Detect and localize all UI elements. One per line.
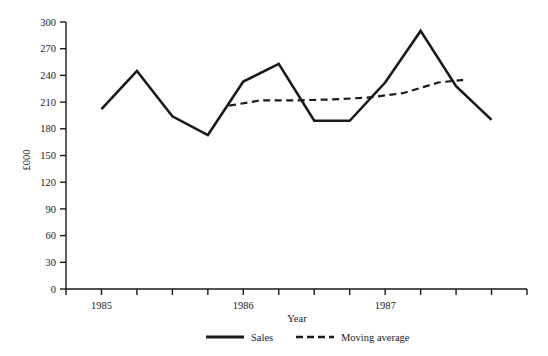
x-axis-ticks — [66, 289, 527, 295]
y-tick-label-240: 240 — [40, 70, 56, 81]
y-tick-label-60: 60 — [46, 230, 57, 241]
y-axis-title: £000 — [21, 150, 32, 171]
line-chart: 0306090120150180210240270300 19851986198… — [0, 0, 548, 356]
y-tick-label-90: 90 — [46, 204, 57, 215]
y-axis-ticks — [60, 22, 66, 289]
legend-label-sales: Sales — [251, 332, 273, 343]
chart-legend: Sales Moving average — [206, 332, 410, 343]
y-tick-label-30: 30 — [46, 257, 57, 268]
series-line-moving-average — [229, 80, 463, 106]
x-tick-label-1986: 1986 — [233, 300, 254, 311]
series-line-sales — [101, 31, 491, 135]
chart-container: 0306090120150180210240270300 19851986198… — [0, 0, 548, 356]
x-tick-label-1987: 1987 — [375, 300, 396, 311]
y-axis-tick-labels: 0306090120150180210240270300 — [40, 17, 56, 295]
y-tick-label-270: 270 — [40, 43, 56, 54]
y-tick-label-150: 150 — [40, 150, 56, 161]
y-tick-label-120: 120 — [40, 177, 56, 188]
x-tick-label-1985: 1985 — [91, 300, 112, 311]
x-axis-tick-labels: 198519861987 — [91, 300, 396, 311]
legend-label-moving-average: Moving average — [341, 332, 410, 343]
x-axis-title: Year — [287, 313, 307, 324]
y-tick-label-300: 300 — [40, 17, 56, 28]
y-tick-label-180: 180 — [40, 123, 56, 134]
y-tick-label-0: 0 — [51, 284, 56, 295]
y-tick-label-210: 210 — [40, 97, 56, 108]
